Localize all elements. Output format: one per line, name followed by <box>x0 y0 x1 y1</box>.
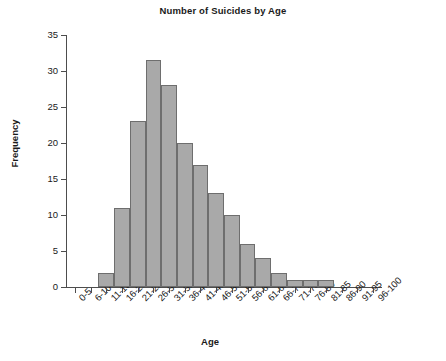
x-axis-title: Age <box>150 336 270 347</box>
bar <box>240 244 256 287</box>
bar-slot <box>334 35 350 287</box>
y-tick-label: 5 <box>0 246 58 255</box>
y-tick <box>61 71 66 72</box>
bar-slot <box>146 35 162 287</box>
bar <box>255 258 271 287</box>
bar-slot <box>287 35 303 287</box>
x-tick <box>279 288 280 293</box>
y-tick-label: 0 <box>0 282 58 291</box>
bar-slot <box>318 35 334 287</box>
bar-slot <box>240 35 256 287</box>
x-tick <box>310 288 311 293</box>
x-tick <box>75 288 76 293</box>
bar-slot <box>130 35 146 287</box>
bar-slot <box>255 35 271 287</box>
y-tick <box>61 143 66 144</box>
y-tick-label: 35 <box>0 30 58 39</box>
bar <box>271 273 287 287</box>
y-tick <box>61 215 66 216</box>
plot-area <box>67 35 381 287</box>
bar-slot <box>67 35 83 287</box>
bar <box>287 280 303 287</box>
x-tick <box>200 288 201 293</box>
x-tick <box>216 288 217 293</box>
bar-slot <box>114 35 130 287</box>
bar <box>224 215 240 287</box>
bar-slot <box>208 35 224 287</box>
x-tick <box>342 288 343 293</box>
bar-slot <box>350 35 366 287</box>
y-tick <box>61 35 66 36</box>
bar <box>193 165 209 287</box>
y-tick <box>61 179 66 180</box>
x-tick <box>91 288 92 293</box>
bar <box>130 121 146 287</box>
x-tick <box>169 288 170 293</box>
x-tick <box>138 288 139 293</box>
bar-slot <box>98 35 114 287</box>
bar-slot <box>161 35 177 287</box>
bar <box>161 85 177 287</box>
x-tick <box>153 288 154 293</box>
x-tick <box>357 288 358 293</box>
x-tick <box>122 288 123 293</box>
bar <box>208 193 224 287</box>
bar-slot <box>177 35 193 287</box>
y-axis-title: Frequency <box>9 74 20 214</box>
x-tick <box>106 288 107 293</box>
bar <box>318 280 334 287</box>
bar <box>114 208 130 287</box>
bars-layer <box>67 35 381 287</box>
histogram-chart: Number of Suicides by Age 05101520253035… <box>0 0 446 361</box>
bar <box>177 143 193 287</box>
x-tick <box>295 288 296 293</box>
bar <box>98 273 114 287</box>
bar <box>303 280 319 287</box>
y-tick <box>61 251 66 252</box>
x-tick <box>263 288 264 293</box>
bar-slot <box>193 35 209 287</box>
bar-slot <box>271 35 287 287</box>
y-tick <box>61 287 66 288</box>
bar-slot <box>365 35 381 287</box>
y-tick <box>61 107 66 108</box>
bar <box>146 60 162 287</box>
x-tick <box>232 288 233 293</box>
bar-slot <box>303 35 319 287</box>
bar-slot <box>83 35 99 287</box>
x-tick <box>185 288 186 293</box>
chart-title: Number of Suicides by Age <box>0 5 446 16</box>
bar-slot <box>224 35 240 287</box>
x-tick <box>373 288 374 293</box>
x-tick <box>248 288 249 293</box>
x-tick <box>326 288 327 293</box>
